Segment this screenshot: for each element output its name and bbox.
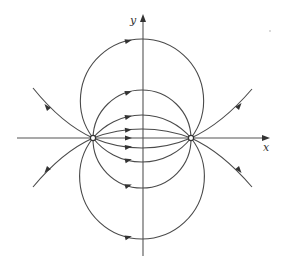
outer-arrow-lower-left <box>43 166 51 175</box>
lower-field-arc <box>93 138 191 148</box>
scan-smudge <box>269 30 271 32</box>
outer-curve-lower-right <box>191 138 252 187</box>
outer-curve-lower-left <box>33 138 93 187</box>
upper-arc-arrow <box>124 37 132 44</box>
y-axis-label: y <box>129 14 137 27</box>
upper-arc-arrow <box>124 89 132 96</box>
diagram-canvas: y x <box>0 0 284 266</box>
axis-flow-arrow <box>125 136 132 141</box>
outer-curve-upper-left <box>33 88 93 138</box>
y-axis-arrowhead <box>140 14 146 22</box>
upper-field-arc <box>93 115 191 138</box>
x-axis-label: x <box>263 141 270 154</box>
upper-field-arc <box>93 90 191 138</box>
upper-arc-arrow <box>124 113 132 120</box>
lower-field-arc <box>93 138 191 188</box>
lower-arc-arrow <box>124 157 132 164</box>
lower-arc-arrow <box>124 182 132 189</box>
upper-field-arc <box>80 39 203 138</box>
upper-arc-arrow <box>125 127 133 133</box>
lower-field-arc <box>93 138 191 162</box>
left-node <box>90 135 95 140</box>
lower-arc-arrow <box>124 234 132 241</box>
right-node <box>188 135 193 140</box>
phase-portrait-figure: y x <box>0 0 284 266</box>
outer-curve-upper-right <box>191 89 252 138</box>
upper-field-arc <box>93 129 191 138</box>
